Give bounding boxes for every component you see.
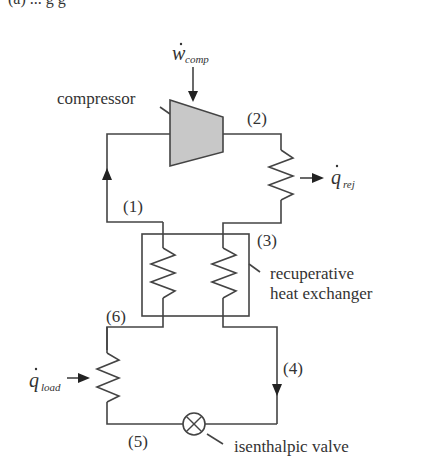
svg-text:w: w (172, 42, 186, 64)
recuperator-cold-coil-icon (151, 248, 175, 298)
heat-rejected-arrow-icon (300, 173, 324, 183)
heat-rejected-label: q rej (331, 165, 355, 190)
compressor-icon (170, 100, 223, 166)
valve-label: isenthalpic valve (234, 437, 349, 456)
refrigeration-cycle-diagram: (a) ... g g w comp compressor (2) q rej … (0, 0, 424, 476)
state-point-4: (4) (283, 359, 303, 378)
pipe-load-to-5 (107, 402, 183, 424)
state-point-3: (3) (257, 231, 277, 250)
valve-leader-line (207, 434, 223, 444)
recuperator-box (142, 234, 249, 316)
state-point-5: (5) (128, 432, 148, 451)
svg-text:q: q (331, 166, 341, 189)
pipe-recuperator-to-4 (223, 298, 277, 424)
flow-arrow-up-icon (102, 168, 112, 180)
recuperator-label-line2: heat exchanger (270, 284, 373, 303)
recuperator-hot-coil-icon (212, 248, 236, 298)
heat-rejection-coil-icon (269, 150, 293, 200)
isenthalpic-valve-icon (183, 413, 205, 435)
compressor-label: compressor (57, 89, 136, 108)
recuperator-label-line1: recuperative (270, 264, 354, 283)
work-input-arrow-icon (188, 67, 198, 102)
caption-partial: (a) ... g g (8, 0, 66, 8)
svg-text:rej: rej (343, 178, 355, 190)
work-input-label: w comp (172, 42, 209, 65)
svg-text:comp: comp (185, 53, 209, 65)
svg-text:load: load (41, 381, 61, 393)
heat-load-label: q load (29, 368, 61, 393)
heat-load-arrow-icon (67, 373, 90, 383)
recuperator-leader-line (249, 264, 260, 272)
svg-text:q: q (29, 369, 39, 392)
state-point-2: (2) (247, 109, 267, 128)
pipe-compressor-to-rejector (223, 134, 281, 150)
heat-load-coil-icon (97, 353, 119, 402)
flow-arrow-down-icon (272, 384, 282, 396)
state-point-6: (6) (106, 307, 126, 326)
state-point-1: (1) (123, 197, 143, 216)
compressor-leader-line (160, 107, 170, 114)
